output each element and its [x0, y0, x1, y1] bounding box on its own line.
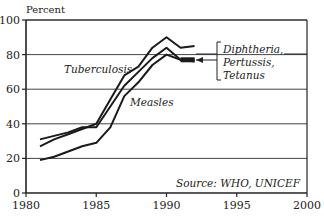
- line-chart: 02040608010019801985199019952000 Percent…: [0, 0, 324, 219]
- tuberculosis-label: Tuberculosis: [64, 63, 133, 75]
- grid-lines: [26, 20, 307, 158]
- source-note: Source: WHO, UNICEF: [176, 177, 301, 189]
- x-tick-label: 1990: [153, 199, 181, 212]
- dpt-label-line-2: Pertussis,: [222, 56, 275, 68]
- series-line-1: [40, 48, 195, 140]
- x-tick-label: 1995: [223, 199, 251, 212]
- y-tick-label: 80: [6, 49, 20, 62]
- y-tick-label: 100: [0, 14, 20, 27]
- dpt-label-line-1: Diphtheria,: [222, 43, 283, 55]
- series-line-0: [40, 37, 195, 146]
- y-tick-label: 60: [6, 83, 20, 96]
- y-axis-label: Percent: [26, 4, 65, 15]
- y-tick-label: 20: [6, 152, 20, 165]
- measles-label: Measles: [129, 96, 174, 108]
- x-tick-label: 1985: [82, 199, 110, 212]
- arrow-icon: [196, 57, 203, 63]
- y-tick-label: 40: [6, 118, 20, 131]
- dpt-annotation: Diphtheria, Pertussis, Tetanus: [196, 42, 307, 81]
- dpt-label-line-3: Tetanus: [223, 69, 265, 81]
- x-tick-label: 2000: [293, 199, 321, 212]
- x-tick-label: 1980: [12, 199, 40, 212]
